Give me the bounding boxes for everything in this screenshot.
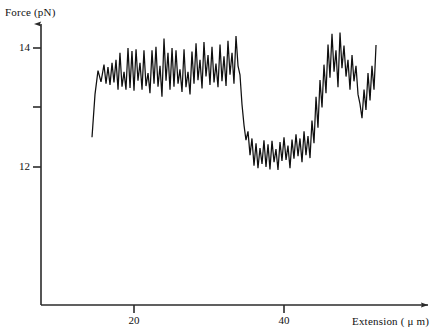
- y-axis-ticks: [33, 48, 41, 167]
- force-extension-figure: Force (pN) Extension ( μ m) 14 12 20 40: [0, 0, 440, 335]
- y-axis-title: Force (pN): [5, 6, 56, 18]
- force-extension-trace: [92, 33, 376, 170]
- x-axis-ticks: [134, 305, 284, 313]
- plot-canvas: [0, 0, 440, 335]
- x-tick-label-40: 40: [272, 314, 296, 326]
- y-tick-label-14: 14: [8, 41, 30, 53]
- x-axis-title: Extension ( μ m): [352, 315, 429, 327]
- y-tick-label-12: 12: [8, 160, 30, 172]
- x-tick-label-20: 20: [122, 314, 146, 326]
